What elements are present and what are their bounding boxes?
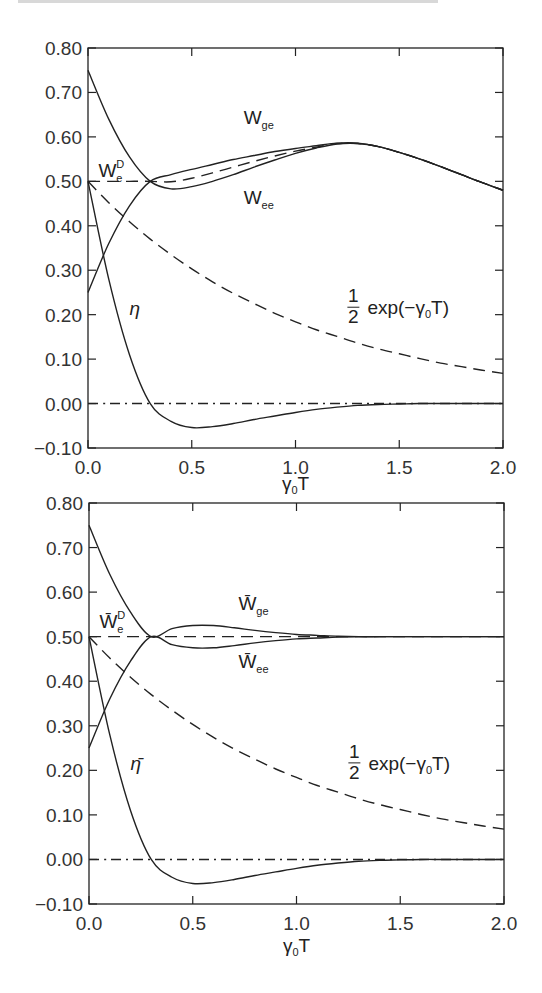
bottom-panel: 0.800.700.600.500.400.300.200.100.00−0.1… <box>35 493 517 958</box>
top-panel: 0.800.700.600.500.400.300.200.100.00−0.1… <box>34 38 516 496</box>
plot-frame <box>89 503 504 904</box>
svg-text:2: 2 <box>348 306 359 327</box>
annotation-label: WDe <box>98 158 124 184</box>
x-tick-label: 1.5 <box>387 913 413 934</box>
annotation-label: W̄De <box>99 609 125 635</box>
y-tick-label: −0.10 <box>35 894 83 915</box>
svg-text:2: 2 <box>349 762 360 783</box>
x-tick-label: 2.0 <box>490 457 516 478</box>
y-tick-label: 0.50 <box>46 627 83 648</box>
x-axis-label: γ0T <box>283 935 311 958</box>
plot-frame <box>88 48 503 448</box>
annotation-label: η̄ <box>131 753 145 774</box>
annotation-label: Wge <box>244 107 274 131</box>
y-tick-label: 0.40 <box>46 671 83 692</box>
series-w-ge <box>88 143 503 293</box>
y-tick-label: 0.10 <box>45 349 82 370</box>
y-tick-label: 0.20 <box>45 305 82 326</box>
y-tick-label: 0.20 <box>46 760 83 781</box>
x-tick-label: 0.0 <box>75 457 101 478</box>
y-tick-label: 0.30 <box>45 260 82 281</box>
y-tick-label: −0.10 <box>34 438 82 459</box>
x-tick-label: 0.5 <box>180 913 206 934</box>
y-tick-label: 0.70 <box>45 82 82 103</box>
svg-text:1: 1 <box>349 741 360 762</box>
x-tick-label: 1.5 <box>386 457 412 478</box>
annotation-label: Wee <box>244 187 274 211</box>
series-w-ge <box>89 525 504 637</box>
annotation-label: W̄ge <box>238 593 268 617</box>
x-tick-label: 0.0 <box>76 913 102 934</box>
annotation-label: η <box>130 298 141 319</box>
y-tick-label: 0.80 <box>46 493 83 514</box>
x-tick-label: 1.0 <box>283 913 309 934</box>
y-tick-label: 0.50 <box>45 171 82 192</box>
x-tick-label: 2.0 <box>491 913 517 934</box>
y-tick-label: 0.00 <box>45 394 82 415</box>
y-tick-label: 0.80 <box>45 38 82 59</box>
annotation-label: W̄ee <box>238 651 268 675</box>
figure: 0.800.700.600.500.400.300.200.100.00−0.1… <box>0 0 542 993</box>
y-tick-label: 0.40 <box>45 216 82 237</box>
annotation-exp: 12exp(−γ0T) <box>347 285 449 327</box>
y-tick-label: 0.30 <box>46 716 83 737</box>
svg-text:exp(−γ0T): exp(−γ0T) <box>368 753 450 776</box>
series-1-2-exp-t- <box>88 181 503 373</box>
y-tick-label: 0.60 <box>46 582 83 603</box>
svg-text:exp(−γ0T): exp(−γ0T) <box>367 297 449 320</box>
series-w-ee <box>89 636 504 748</box>
series-1-2-exp-t- <box>89 637 504 829</box>
x-tick-label: 0.5 <box>179 457 205 478</box>
y-tick-label: 0.10 <box>46 805 83 826</box>
y-tick-label: 0.60 <box>45 127 82 148</box>
y-tick-label: 0.70 <box>46 538 83 559</box>
y-tick-label: 0.00 <box>46 849 83 870</box>
series-w-ee <box>88 70 503 190</box>
annotation-exp: 12exp(−γ0T) <box>348 741 450 783</box>
svg-text:1: 1 <box>348 285 359 306</box>
